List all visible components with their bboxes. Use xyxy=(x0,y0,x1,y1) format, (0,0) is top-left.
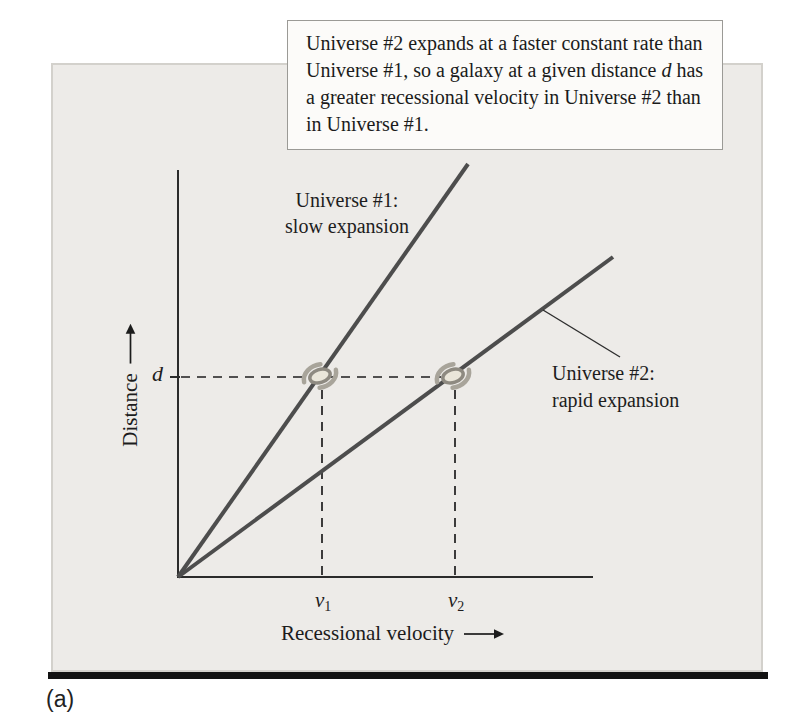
y-axis-title-text: Distance xyxy=(118,373,143,446)
callout-distance-term: d xyxy=(661,59,671,81)
universe1-label-sub: slow expansion xyxy=(262,213,432,239)
d-label: d xyxy=(152,361,163,387)
universe1-label-title: Universe #1: xyxy=(262,187,432,213)
universe2-label-sub: rapid expansion xyxy=(552,387,679,414)
callout-box: Universe #2 expands at a faster constant… xyxy=(287,20,723,150)
universe1-label: Universe #1: slow expansion xyxy=(262,187,432,239)
v1-label-subscript: 1 xyxy=(324,599,331,614)
up-arrow-icon xyxy=(124,323,136,363)
hubble-expansion-figure: Universe #2 expands at a faster constant… xyxy=(0,0,802,723)
universe2-line xyxy=(178,257,613,577)
right-arrow-icon xyxy=(464,628,504,640)
v1-label-base: v xyxy=(315,588,324,612)
x-axis-title: Recessional velocity xyxy=(240,621,545,646)
x-axis-title-text: Recessional velocity xyxy=(281,621,454,646)
v2-label: v2 xyxy=(448,588,464,613)
callout-text-part1: Universe #2 expands at a faster constant… xyxy=(306,32,703,81)
y-axis-title: Distance xyxy=(118,323,143,446)
universe2-label-pointer xyxy=(543,310,620,357)
figure-letter: (a) xyxy=(46,686,74,713)
universe2-label: Universe #2: rapid expansion xyxy=(552,360,679,414)
v2-label-subscript: 2 xyxy=(457,599,464,614)
v2-label-base: v xyxy=(448,588,457,612)
universe2-label-title: Universe #2: xyxy=(552,360,679,387)
v1-label: v1 xyxy=(315,588,331,613)
galaxy-icon xyxy=(300,360,339,392)
